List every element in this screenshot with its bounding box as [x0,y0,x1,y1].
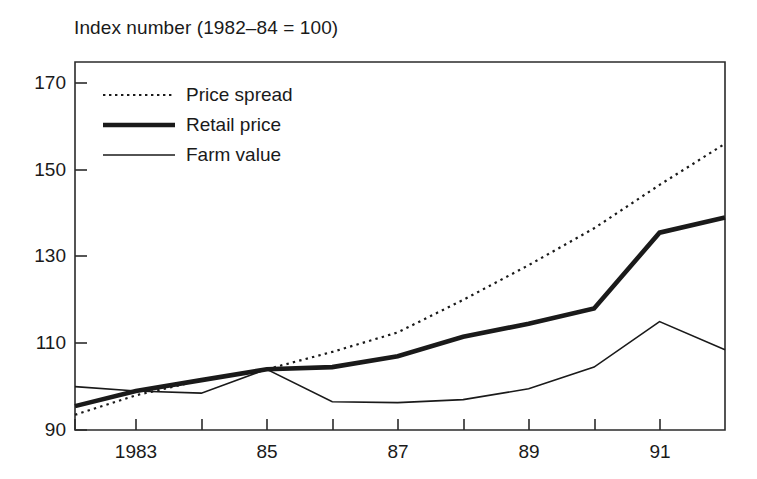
legend-label-farm-value: Farm value [186,144,281,166]
y-axis-label-90: 90 [20,419,66,441]
axis-frame [75,62,725,430]
y-axis-label-150: 150 [20,159,66,181]
legend-label-retail-price: Retail price [186,114,281,136]
y-axis-label-110: 110 [20,332,66,354]
x-axis-label-85: 85 [242,441,292,463]
chart-figure: Index number (1982–84 = 100) [0,0,757,479]
y-axis-label-170: 170 [20,72,66,94]
y-axis-label-130: 130 [20,245,66,267]
legend-label-price-spread: Price spread [186,84,293,106]
series-layer [75,144,725,415]
legend-swatches [103,95,175,155]
series-line-farm-value [75,322,725,403]
x-axis-label-91: 91 [635,441,685,463]
series-line-retail-price [75,217,725,406]
x-axis-label-1983: 1983 [96,441,176,463]
series-line-price-spread [75,144,725,415]
plot-area [0,0,757,479]
x-axis-label-89: 89 [504,441,554,463]
y-axis-ticks [75,83,87,430]
x-axis-ticks [75,419,660,430]
axes-border [75,62,725,430]
x-axis-label-87: 87 [373,441,423,463]
